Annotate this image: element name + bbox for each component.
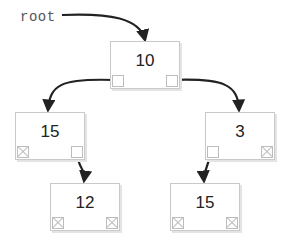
right-pointer-cell [166, 75, 178, 87]
node-value: 12 [51, 193, 119, 213]
node-value: 3 [206, 122, 274, 142]
root-label: root [20, 9, 56, 25]
null-pointer-icon [106, 217, 118, 229]
root-pointer-arrow [62, 15, 145, 40]
tree-node-3: 3 [205, 112, 275, 160]
node-value: 15 [171, 193, 239, 213]
null-pointer-icon [226, 217, 238, 229]
node-value: 15 [16, 122, 84, 142]
edge-10-to-15 [48, 80, 115, 110]
right-pointer-cell [71, 146, 83, 158]
null-pointer-icon [172, 217, 184, 229]
node-value: 10 [111, 51, 179, 71]
null-pointer-icon [17, 146, 29, 158]
tree-node-10: 10 [110, 41, 180, 89]
left-pointer-cell [112, 75, 124, 87]
left-pointer-cell [207, 146, 219, 158]
null-pointer-icon [52, 217, 64, 229]
tree-diagram: root 10 15 3 12 15 [0, 0, 283, 242]
tree-node-15-left: 15 [15, 112, 85, 160]
tree-node-12: 12 [50, 183, 120, 231]
edge-10-to-3 [172, 80, 239, 110]
null-pointer-icon [261, 146, 273, 158]
tree-node-15-right: 15 [170, 183, 240, 231]
